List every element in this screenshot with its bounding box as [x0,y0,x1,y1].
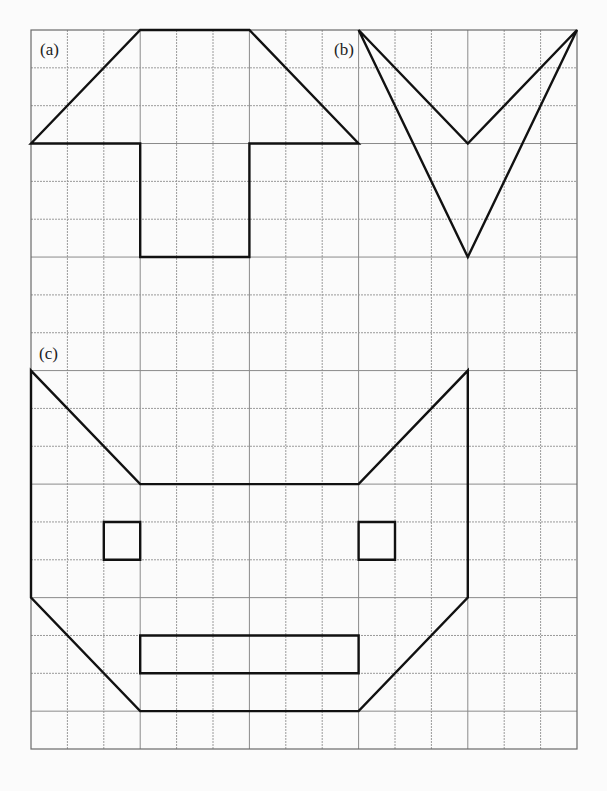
figure-label-b: (b) [334,41,354,58]
grid-lines [31,30,577,749]
figure-label-c: (c) [39,345,58,362]
figure-label-a: (a) [40,41,59,58]
grid-diagram [0,0,607,791]
figure-c-right-eye [359,522,395,560]
grid-border [31,30,577,749]
figure-c-left-eye [104,522,140,560]
